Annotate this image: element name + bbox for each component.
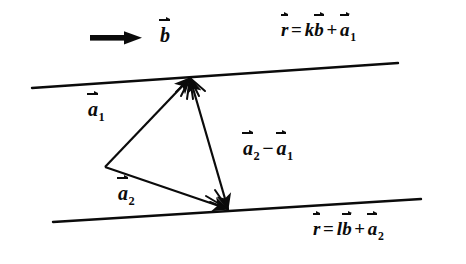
label-vector-difference: a2−a1: [243, 138, 293, 163]
eq-bot-equals: =: [323, 218, 334, 239]
eq-top-term1-symbol: b: [314, 20, 324, 39]
line-upper-parallel: [32, 63, 398, 88]
minus-operator: −: [262, 137, 274, 159]
label-b-symbol: b: [160, 25, 170, 45]
b-direction-arrow: [90, 31, 142, 44]
label-vector-a2: a2: [118, 183, 135, 208]
label-a1-symbol: a: [88, 99, 98, 119]
eq-top-scalar-k: k: [305, 19, 315, 40]
label-a1-subscript: 1: [99, 110, 105, 124]
equation-lower-line: r=lb+a2: [313, 219, 384, 243]
eq-bot-term2-subscript: 2: [378, 230, 384, 243]
label-diff-left-subscript: 2: [254, 149, 260, 163]
eq-top-term2-subscript: 1: [350, 31, 356, 44]
label-a2-subscript: 2: [129, 194, 135, 208]
eq-bot-term2-symbol: a: [368, 219, 378, 238]
label-diff-right-subscript: 1: [287, 149, 293, 163]
label-vector-a1: a1: [88, 99, 105, 124]
top-vertex-arrow-cluster: [176, 78, 205, 99]
label-vector-b: b: [160, 25, 170, 45]
vector-diagram-figure: a1 a2 b a2−a1 r=kb+a1 r=lb+a2: [0, 0, 466, 264]
label-diff-right-symbol: a: [276, 138, 286, 158]
eq-bot-plus: +: [354, 218, 365, 239]
eq-top-plus: +: [327, 19, 338, 40]
eq-bot-lhs-symbol: r: [313, 219, 321, 238]
label-diff-left-symbol: a: [243, 138, 253, 158]
eq-top-lhs-symbol: r: [281, 20, 289, 39]
eq-top-term2-symbol: a: [340, 20, 350, 39]
diagram-canvas: [0, 0, 466, 264]
eq-bot-term1-symbol: b: [342, 219, 352, 238]
vector-difference-shaft: [190, 78, 228, 209]
eq-top-equals: =: [291, 19, 302, 40]
label-a2-symbol: a: [118, 183, 128, 203]
equation-upper-line: r=kb+a1: [281, 20, 356, 44]
